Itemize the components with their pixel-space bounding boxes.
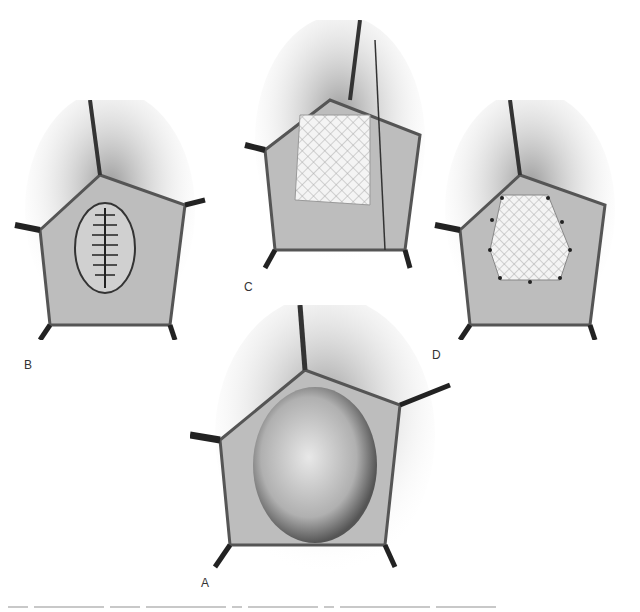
figure-caption-truncated — [0, 606, 640, 612]
panel-label-b: B — [24, 358, 32, 372]
panel-label-a: A — [201, 576, 209, 590]
illustration-panel-d — [430, 100, 630, 340]
illustration-panel-c — [240, 20, 440, 280]
illustration-panel-a — [190, 305, 460, 585]
panel-label-c: C — [244, 280, 253, 294]
illustration-panel-b — [10, 100, 210, 340]
